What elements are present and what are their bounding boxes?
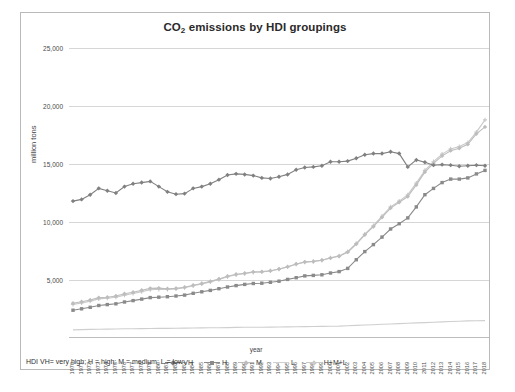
data-point: [200, 184, 204, 188]
data-point: [320, 164, 324, 168]
data-point: [208, 182, 212, 186]
data-point: [345, 159, 349, 163]
data-point: [174, 192, 178, 196]
data-point: [475, 172, 478, 175]
data-point: [149, 296, 152, 299]
data-point: [251, 173, 255, 177]
data-point: [354, 156, 358, 160]
y-axis-tick-label: 5,000: [47, 277, 63, 284]
data-point: [380, 151, 384, 155]
data-point: [260, 282, 263, 285]
data-point: [166, 295, 169, 298]
chart-title: CO2 emissions by HDI groupings: [21, 21, 489, 33]
data-point: [294, 262, 298, 266]
data-point: [174, 286, 178, 290]
data-point: [457, 164, 461, 168]
data-point: [226, 285, 229, 288]
figure-root: CO2 emissions by HDI groupings million t…: [0, 0, 515, 392]
data-point: [182, 285, 186, 289]
data-point: [294, 168, 298, 172]
data-point: [260, 269, 264, 273]
data-point: [355, 258, 358, 261]
data-point: [363, 153, 367, 157]
data-point: [277, 267, 281, 271]
data-point: [183, 293, 186, 296]
data-point: [268, 269, 272, 273]
data-point: [208, 279, 212, 283]
data-point: [269, 281, 272, 284]
data-point: [217, 277, 221, 281]
series-line-h: [73, 170, 485, 310]
data-point: [131, 299, 134, 302]
data-point: [423, 193, 426, 196]
data-point: [251, 270, 255, 274]
data-point: [320, 273, 323, 276]
chart-title-subscript: 2: [181, 26, 186, 35]
x-axis-line: [69, 337, 489, 338]
data-point: [346, 267, 349, 270]
data-point: [174, 294, 177, 297]
data-point: [372, 243, 375, 246]
data-point: [242, 172, 246, 176]
data-point: [440, 162, 444, 166]
data-point: [458, 177, 461, 180]
series-line-h-m-l: [73, 120, 485, 305]
chart-title-rest: emissions by HDI groupings: [185, 21, 346, 33]
hdi-note: HDI VH= very high; H = high; M = medium;…: [20, 352, 490, 370]
data-point: [277, 280, 280, 283]
data-point: [234, 172, 238, 176]
data-point: [329, 271, 332, 274]
data-point: [432, 187, 435, 190]
data-point: [448, 163, 452, 167]
data-point: [242, 271, 246, 275]
data-point: [123, 300, 126, 303]
series-line-l: [73, 321, 485, 330]
data-point: [286, 278, 289, 281]
chart-frame: CO2 emissions by HDI groupings million t…: [20, 12, 490, 370]
data-point: [234, 284, 237, 287]
data-point: [157, 296, 160, 299]
data-point: [260, 176, 264, 180]
data-point: [277, 175, 281, 179]
series-line-m: [73, 127, 485, 303]
data-point: [285, 172, 289, 176]
data-point: [71, 199, 75, 203]
plot-area: 5,00010,00015,00020,00025,000: [69, 48, 489, 338]
data-point: [440, 181, 443, 184]
data-point: [371, 151, 375, 155]
chart-title-main: CO: [163, 21, 180, 33]
data-point: [311, 165, 315, 169]
data-point: [406, 216, 409, 219]
data-point: [328, 159, 332, 163]
data-point: [131, 182, 135, 186]
data-point: [225, 173, 229, 177]
data-point: [268, 176, 272, 180]
data-point: [483, 169, 486, 172]
y-axis-tick-label: 10,000: [43, 219, 63, 226]
data-point: [320, 258, 324, 262]
data-point: [328, 256, 332, 260]
series-lines: [69, 48, 489, 338]
data-point: [191, 283, 195, 287]
data-point: [389, 227, 392, 230]
y-axis-tick-label: 25,000: [43, 45, 63, 52]
data-point: [217, 177, 221, 181]
data-point: [380, 235, 383, 238]
data-point: [474, 163, 478, 167]
data-point: [398, 222, 401, 225]
data-point: [140, 297, 143, 300]
data-point: [415, 205, 418, 208]
data-point: [97, 304, 100, 307]
data-point: [71, 309, 74, 312]
data-point: [200, 281, 204, 285]
data-point: [114, 302, 117, 305]
data-point: [105, 188, 109, 192]
data-point: [337, 159, 341, 163]
data-point: [209, 289, 212, 292]
data-point: [200, 290, 203, 293]
data-point: [79, 197, 83, 201]
data-point: [466, 164, 470, 168]
data-point: [423, 160, 427, 164]
data-point: [165, 287, 169, 291]
data-point: [192, 292, 195, 295]
